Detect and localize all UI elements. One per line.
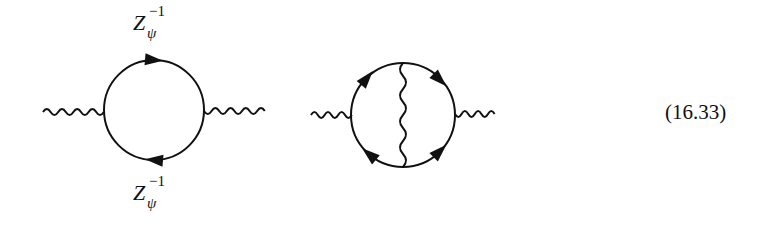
label-subscript: ψ [147,25,156,42]
label-bottom-renormalization: Z −1 ψ [133,180,145,206]
internal-photon-line [400,63,406,167]
equation-number: (16.33) [665,100,726,125]
label-base: Z [133,180,145,205]
photon-line-right [204,108,265,114]
photon-line-right [455,111,495,117]
feynman-diagrams [0,0,773,226]
photon-line-left [311,112,352,118]
arrow-top-icon [145,53,164,67]
label-superscript: −1 [149,3,165,20]
arrow-bottom-icon [145,153,164,167]
label-base: Z [133,10,145,35]
fermion-loop [104,60,204,160]
label-superscript: −1 [149,173,165,190]
label-subscript: ψ [147,195,156,212]
photon-line-left [43,109,104,115]
label-top-renormalization: Z −1 ψ [133,10,145,36]
diagram-one-loop [43,53,265,167]
diagram-two-loop [311,63,495,167]
